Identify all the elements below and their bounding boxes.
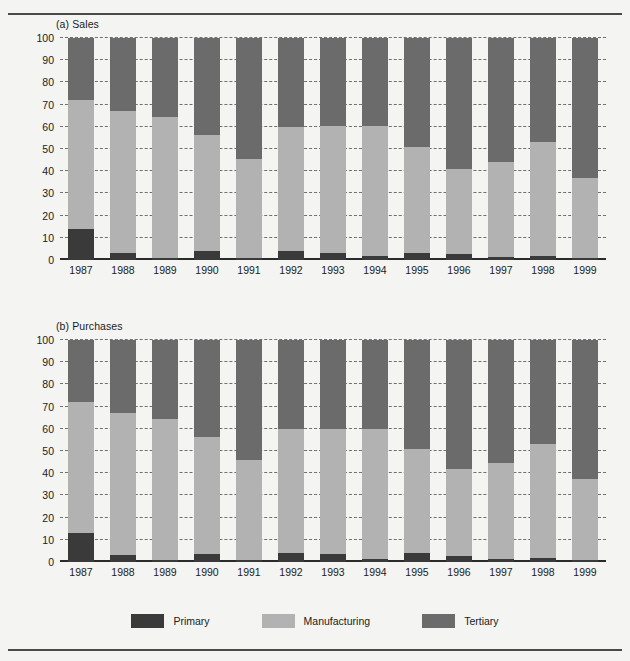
bar-segment-tertiary-1999[interactable] [572,340,598,479]
bar-segment-primary-1997[interactable] [488,257,514,260]
legend-item-primary[interactable]: Primary [131,614,209,628]
bar-segment-primary-1992[interactable] [278,553,304,562]
bar-segment-tertiary-1999[interactable] [572,38,598,178]
bar-segment-tertiary-1989[interactable] [152,340,178,419]
bar-segment-tertiary-1988[interactable] [110,38,136,111]
bar-segment-primary-1992[interactable] [278,251,304,260]
bar-segment-primary-1994[interactable] [362,559,388,562]
stacked-bar-1997[interactable] [488,340,514,562]
bar-segment-tertiary-1992[interactable] [278,340,304,429]
stacked-bar-1991[interactable] [236,38,262,260]
bar-segment-manufacturing-1996[interactable] [446,169,472,254]
bar-segment-manufacturing-1991[interactable] [236,460,262,560]
stacked-bar-1989[interactable] [152,38,178,260]
bar-segment-manufacturing-1998[interactable] [530,444,556,557]
bar-segment-manufacturing-1992[interactable] [278,127,304,251]
legend-item-manufacturing[interactable]: Manufacturing [262,614,371,628]
bar-segment-tertiary-1993[interactable] [320,340,346,429]
bar-segment-manufacturing-1988[interactable] [110,111,136,253]
bar-segment-tertiary-1995[interactable] [404,340,430,449]
bar-segment-tertiary-1993[interactable] [320,38,346,126]
bar-segment-manufacturing-1997[interactable] [488,162,514,256]
bar-segment-tertiary-1990[interactable] [194,340,220,437]
bar-segment-primary-1991[interactable] [236,258,262,260]
stacked-bar-1995[interactable] [404,340,430,562]
bar-segment-manufacturing-1987[interactable] [68,100,94,229]
bar-segment-primary-1995[interactable] [404,253,430,260]
bar-segment-primary-1994[interactable] [362,256,388,260]
bar-segment-tertiary-1992[interactable] [278,38,304,127]
bar-segment-tertiary-1997[interactable] [488,38,514,162]
bar-segment-primary-1989[interactable] [152,258,178,260]
bar-segment-tertiary-1998[interactable] [530,340,556,444]
bar-segment-primary-1998[interactable] [530,558,556,562]
stacked-bar-1994[interactable] [362,340,388,562]
stacked-bar-1994[interactable] [362,38,388,260]
bar-segment-primary-1993[interactable] [320,253,346,260]
bar-segment-tertiary-1998[interactable] [530,38,556,142]
bar-segment-primary-1990[interactable] [194,554,220,562]
bar-segment-manufacturing-1994[interactable] [362,429,388,559]
stacked-bar-1988[interactable] [110,340,136,562]
bar-segment-tertiary-1987[interactable] [68,340,94,402]
stacked-bar-1991[interactable] [236,340,262,562]
bar-segment-manufacturing-1998[interactable] [530,142,556,255]
bar-segment-tertiary-1994[interactable] [362,340,388,429]
bar-segment-tertiary-1995[interactable] [404,38,430,147]
bar-segment-manufacturing-1990[interactable] [194,437,220,555]
bar-segment-manufacturing-1988[interactable] [110,413,136,555]
bar-segment-primary-1999[interactable] [572,560,598,562]
bar-segment-tertiary-1996[interactable] [446,38,472,169]
bar-segment-manufacturing-1990[interactable] [194,135,220,252]
stacked-bar-1998[interactable] [530,38,556,260]
stacked-bar-1992[interactable] [278,38,304,260]
bar-segment-primary-1988[interactable] [110,555,136,562]
stacked-bar-1999[interactable] [572,340,598,562]
bar-segment-manufacturing-1997[interactable] [488,463,514,558]
stacked-bar-1996[interactable] [446,340,472,562]
bar-segment-primary-1990[interactable] [194,251,220,260]
bar-segment-tertiary-1997[interactable] [488,340,514,463]
bar-segment-primary-1987[interactable] [68,533,94,562]
bar-segment-primary-1995[interactable] [404,553,430,562]
bar-segment-primary-1997[interactable] [488,559,514,562]
bar-segment-manufacturing-1999[interactable] [572,479,598,560]
bar-segment-manufacturing-1995[interactable] [404,147,430,254]
legend-item-tertiary[interactable]: Tertiary [422,614,498,628]
bar-segment-manufacturing-1993[interactable] [320,429,346,554]
bar-segment-manufacturing-1992[interactable] [278,429,304,553]
bar-segment-primary-1993[interactable] [320,554,346,562]
bar-segment-primary-1996[interactable] [446,254,472,260]
stacked-bar-1988[interactable] [110,38,136,260]
bar-segment-tertiary-1991[interactable] [236,38,262,159]
bar-segment-tertiary-1988[interactable] [110,340,136,413]
stacked-bar-1989[interactable] [152,340,178,562]
stacked-bar-1996[interactable] [446,38,472,260]
bar-segment-tertiary-1990[interactable] [194,38,220,135]
bar-segment-primary-1987[interactable] [68,229,94,260]
bar-segment-manufacturing-1995[interactable] [404,449,430,553]
bar-segment-tertiary-1987[interactable] [68,38,94,100]
bar-segment-tertiary-1991[interactable] [236,340,262,460]
bar-segment-tertiary-1994[interactable] [362,38,388,126]
stacked-bar-1999[interactable] [572,38,598,260]
bar-segment-primary-1998[interactable] [530,256,556,260]
bar-segment-manufacturing-1999[interactable] [572,178,598,258]
stacked-bar-1992[interactable] [278,340,304,562]
stacked-bar-1995[interactable] [404,38,430,260]
bar-segment-manufacturing-1987[interactable] [68,402,94,533]
bar-segment-primary-1991[interactable] [236,560,262,562]
bar-segment-primary-1996[interactable] [446,556,472,562]
stacked-bar-1998[interactable] [530,340,556,562]
bar-segment-manufacturing-1989[interactable] [152,419,178,560]
bar-segment-manufacturing-1996[interactable] [446,469,472,557]
stacked-bar-1987[interactable] [68,340,94,562]
bar-segment-tertiary-1989[interactable] [152,38,178,117]
bar-segment-manufacturing-1994[interactable] [362,126,388,256]
bar-segment-primary-1989[interactable] [152,560,178,562]
stacked-bar-1990[interactable] [194,340,220,562]
bar-segment-manufacturing-1991[interactable] [236,159,262,258]
bar-segment-tertiary-1996[interactable] [446,340,472,469]
stacked-bar-1987[interactable] [68,38,94,260]
bar-segment-primary-1999[interactable] [572,258,598,260]
